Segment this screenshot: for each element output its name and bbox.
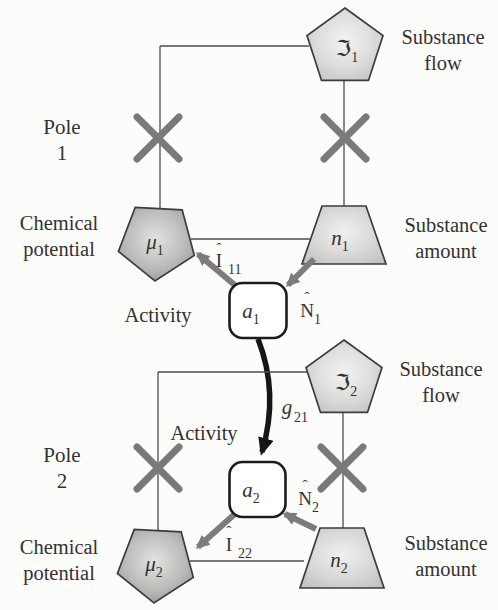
amount-operator-1-label: ˆ N 1 — [300, 289, 321, 327]
coupling-section: g 21 — [258, 339, 308, 452]
svg-text:Substance: Substance — [404, 532, 487, 554]
coupling-arrow — [258, 339, 270, 452]
svg-text:amount: amount — [415, 558, 477, 580]
svg-text:1: 1 — [57, 141, 68, 165]
svg-text:2: 2 — [57, 469, 68, 493]
svg-text:amount: amount — [415, 240, 477, 262]
svg-text:22: 22 — [238, 546, 252, 561]
substance-amount-2-trapezoid — [300, 528, 384, 588]
svg-text:potential: potential — [23, 238, 95, 261]
svg-text:Chemical: Chemical — [20, 536, 99, 558]
substance-flow-1-caption: Substance flow — [401, 26, 484, 74]
svg-text:flow: flow — [424, 52, 462, 74]
svg-text:21: 21 — [294, 410, 308, 425]
svg-text:N: N — [298, 488, 312, 509]
cross-mark-pole2-right — [321, 447, 363, 489]
bond-graph-diagram: ℑ1 μ1 n1 a1 ˆ I 11 ˆ N 1 Pole 1 Substa — [0, 0, 498, 610]
svg-text:Substance: Substance — [399, 358, 482, 380]
svg-text:1: 1 — [314, 312, 321, 327]
pole-2-label: Pole 2 — [43, 443, 80, 493]
substance-flow-2-caption: Substance flow — [399, 358, 482, 406]
svg-text:potential: potential — [23, 562, 95, 585]
pole-1-section: ℑ1 μ1 n1 a1 ˆ I 11 ˆ N 1 Pole 1 Substa — [20, 8, 488, 338]
svg-text:11: 11 — [228, 262, 241, 277]
activity-1-caption: Activity — [124, 304, 192, 327]
svg-text:Pole: Pole — [43, 115, 80, 139]
amount-operator-1-arrow — [288, 259, 314, 285]
chemical-potential-1-caption: Chemical potential — [20, 212, 99, 261]
svg-text:I: I — [216, 250, 222, 271]
diagram-page: ℑ1 μ1 n1 a1 ˆ I 11 ˆ N 1 Pole 1 Substa — [0, 0, 498, 610]
flow-operator-2-label: ˆ I 22 — [226, 523, 252, 561]
svg-text:Chemical: Chemical — [20, 212, 99, 234]
activity-2-box — [230, 462, 286, 517]
pole-2-section: ℑ2 μ2 n2 a2 ˆ I 22 ˆ N 2 Pole 2 Substa — [20, 340, 488, 605]
cross-mark-pole1-left — [137, 117, 179, 159]
svg-text:N: N — [300, 300, 314, 321]
svg-text:Substance: Substance — [401, 26, 484, 48]
svg-text:Substance: Substance — [404, 214, 487, 236]
cross-mark-pole1-right — [324, 117, 366, 159]
svg-text:2: 2 — [312, 500, 319, 515]
activity-1-box — [230, 283, 287, 338]
amount-operator-2-arrow — [285, 514, 316, 529]
substance-amount-1-trapezoid — [302, 206, 386, 264]
coupling-label: g 21 — [282, 395, 308, 425]
svg-text:flow: flow — [422, 384, 460, 406]
svg-text:Pole: Pole — [43, 443, 80, 467]
svg-text:I: I — [226, 534, 232, 555]
pole-1-label: Pole 1 — [43, 115, 80, 165]
substance-amount-2-caption: Substance amount — [404, 532, 487, 580]
amount-operator-2-label: ˆ N 2 — [298, 477, 319, 515]
activity-2-caption: Activity — [170, 422, 238, 445]
chemical-potential-2-caption: Chemical potential — [20, 536, 99, 585]
svg-text:g: g — [282, 395, 293, 419]
substance-amount-1-caption: Substance amount — [404, 214, 487, 262]
